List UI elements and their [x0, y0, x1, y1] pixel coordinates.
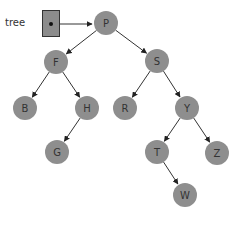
tree-diagram: tree PFSBHRYGTZW — [0, 0, 241, 230]
pointer-dot-icon — [49, 22, 53, 26]
tree-pointer-box — [42, 10, 60, 37]
node-label: W — [180, 190, 190, 201]
edge-F-B — [32, 72, 49, 97]
tree-node-G: G — [45, 140, 69, 164]
node-label: P — [103, 18, 109, 29]
node-label: Y — [184, 103, 190, 114]
node-label: G — [53, 147, 61, 158]
edge-H-G — [64, 118, 80, 141]
tree-node-Z: Z — [205, 141, 229, 165]
edge-P-S — [116, 30, 147, 53]
tree-node-B: B — [13, 96, 37, 120]
node-label: F — [53, 57, 59, 68]
node-label: T — [154, 147, 160, 158]
tree-node-P: P — [94, 11, 118, 35]
edge-S-Y — [163, 71, 180, 97]
edge-Y-Z — [194, 118, 210, 142]
tree-pointer-label: tree — [5, 17, 25, 28]
edge-F-H — [63, 72, 80, 97]
edge-P-F — [66, 30, 96, 54]
tree-node-W: W — [173, 183, 197, 207]
node-label: B — [22, 103, 29, 114]
node-label: S — [154, 56, 160, 67]
edge-Y-T — [164, 118, 180, 141]
node-label: R — [122, 103, 129, 114]
tree-node-R: R — [113, 96, 137, 120]
edge-S-R — [132, 71, 150, 97]
tree-node-Y: Y — [175, 96, 199, 120]
tree-node-H: H — [75, 96, 99, 120]
node-label: Z — [214, 148, 221, 159]
node-label: H — [83, 103, 91, 114]
tree-node-S: S — [145, 49, 169, 73]
tree-node-T: T — [145, 140, 169, 164]
tree-node-F: F — [44, 50, 68, 74]
edge-T-W — [164, 162, 178, 184]
